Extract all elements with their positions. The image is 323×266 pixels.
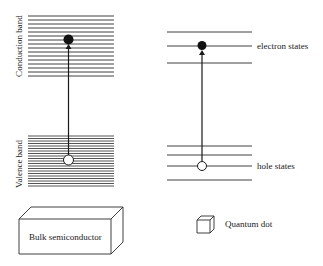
electron-states [167, 32, 252, 63]
hole-states-label: hole states [257, 161, 295, 171]
electron-states-label: electron states [257, 41, 309, 51]
energy-diagram: Conduction band Valence band Bulk semico… [0, 0, 323, 266]
bulk-electron-icon [64, 35, 74, 45]
qd-electron-icon [198, 41, 207, 50]
bulk-semiconductor-label: Bulk semiconductor [29, 232, 102, 242]
qd-hole-icon [198, 162, 207, 171]
bulk-box-icon [19, 207, 123, 254]
qd-transition-arrow [199, 50, 205, 161]
bulk-hole-icon [64, 155, 74, 165]
valence-band-label: Valence band [14, 139, 24, 188]
conduction-band [28, 16, 114, 76]
quantum-dot-label: Quantum dot [225, 219, 273, 229]
quantum-dot-cube-icon [197, 216, 214, 233]
conduction-band-label: Conduction band [14, 15, 24, 77]
hole-states [167, 146, 252, 180]
